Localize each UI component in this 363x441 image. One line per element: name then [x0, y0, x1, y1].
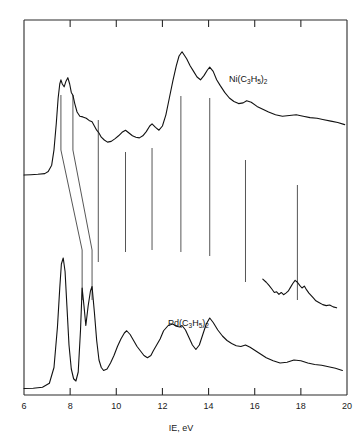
spectra-plot: 68101214161820 Ni(C3H5)2 Pd(C3H5)2 IE, e…: [0, 0, 363, 441]
x-tick-label: 14: [204, 401, 214, 411]
x-tick-label: 16: [250, 401, 260, 411]
figure-container: 68101214161820 Ni(C3H5)2 Pd(C3H5)2 IE, e…: [0, 0, 363, 441]
x-tick-label: 10: [111, 401, 121, 411]
x-tick-label: 20: [342, 401, 352, 411]
x-tick-label: 8: [68, 401, 73, 411]
x-axis-label: IE, eV: [169, 423, 194, 433]
x-tick-label: 6: [21, 401, 26, 411]
plot-background: [0, 0, 363, 441]
x-tick-label: 12: [157, 401, 167, 411]
x-tick-label: 18: [296, 401, 306, 411]
